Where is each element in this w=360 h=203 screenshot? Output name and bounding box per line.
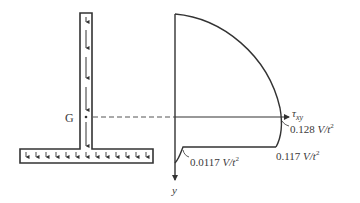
tau-subscript: xy <box>295 113 304 122</box>
t-section: G <box>20 13 153 163</box>
y-axis-label: y <box>171 184 177 196</box>
web-junction-stress-label: 0.117 V/t2 <box>276 149 320 162</box>
stress-distribution-plot: y τxy 0.128 V/t2 0.117 V/t2 0.0117 V/t2 <box>171 14 334 196</box>
max-value-leader <box>282 121 289 126</box>
centroid-label: G <box>65 111 74 125</box>
flange-junction-stress-label: 0.0117 V/t2 <box>190 155 239 168</box>
web-stress-curve <box>175 14 281 147</box>
centroid-point <box>85 116 88 119</box>
shear-stress-diagram: G y τxy 0.128 V/t2 0.117 V/t2 0.0117 V/t… <box>0 0 360 203</box>
tau-axis-label: τxy <box>292 107 303 122</box>
flange-value-leader <box>183 150 189 157</box>
flange-shear-flow-arrows <box>26 152 146 157</box>
max-stress-label: 0.128 V/t2 <box>290 122 334 135</box>
